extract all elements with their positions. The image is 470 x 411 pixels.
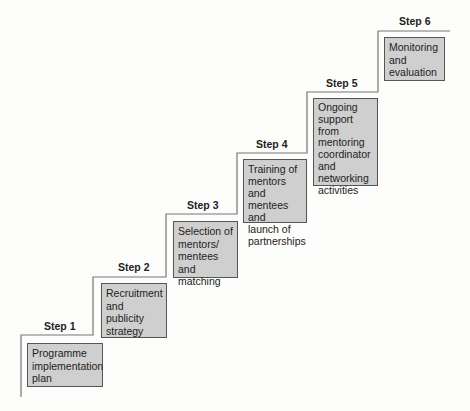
step-4-box: Training of mentors and mentees and laun… — [243, 159, 307, 223]
step-4-label: Step 4 — [256, 138, 288, 150]
step-1-text-line: implementation — [32, 360, 99, 373]
step-3-box: Selection of mentors/ mentees and matchi… — [173, 221, 238, 278]
step-1-box: Programme implementation plan — [27, 343, 103, 387]
step-2-text-line: publicity — [106, 312, 163, 325]
step-3-text-line: matching — [178, 275, 234, 288]
step-4-text-line: mentees and — [248, 199, 303, 223]
step-2-box: Recruitment and publicity strategy — [101, 283, 167, 338]
step-2-label: Step 2 — [118, 261, 150, 273]
step-6-text-line: Monitoring — [389, 41, 441, 54]
step-3-text-line: mentors/ — [178, 238, 234, 251]
step-2-text-line: Recruitment — [106, 287, 163, 300]
step-4-text-line: Training of — [248, 163, 303, 175]
step-5-text-line: and — [318, 161, 374, 173]
step-4-text-line: mentors and — [248, 175, 303, 199]
step-1-text-line: plan — [32, 372, 99, 385]
step-6-box: Monitoring and evaluation — [384, 37, 445, 81]
step-6-text-line: and — [389, 54, 441, 67]
step-1-text-line: Programme — [32, 347, 99, 360]
step-3-text-line: Selection of — [178, 225, 234, 238]
step-5-box: Ongoing support from mentoring coordinat… — [313, 98, 378, 186]
step-4-text-line: launch of — [248, 223, 303, 235]
step-2-text-line: strategy — [106, 325, 163, 338]
staircase-diagram: Step 1 Programme implementation plan Ste… — [0, 0, 470, 411]
step-5-label: Step 5 — [326, 77, 358, 89]
step-5-text-line: support from — [318, 114, 374, 138]
step-6-label: Step 6 — [399, 15, 431, 27]
step-5-text-line: activities — [318, 185, 374, 197]
step-4-text-line: partnerships — [248, 235, 303, 247]
step-1-label: Step 1 — [44, 320, 76, 332]
step-3-text-line: mentees and — [178, 250, 234, 275]
step-6-text-line: evaluation — [389, 66, 441, 79]
step-2-text-line: and — [106, 300, 163, 313]
step-3-label: Step 3 — [187, 199, 219, 211]
step-5-text-line: networking — [318, 173, 374, 185]
